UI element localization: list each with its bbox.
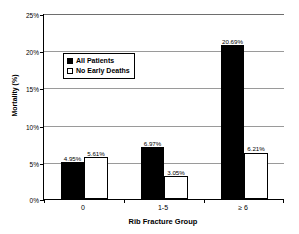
y-tick-label-5: 5% <box>15 160 39 167</box>
x-tick-1 <box>124 199 125 203</box>
bar-all-patients-ge6[interactable] <box>221 45 244 199</box>
chart-figure: Mortality (%) 25% 20% 15% 10% 5% 0% <box>0 0 299 234</box>
y-tick-25 <box>40 15 44 16</box>
value-label-no-early-deaths-1-5: 3.05% <box>167 169 185 176</box>
y-tick-label-20: 20% <box>15 49 39 56</box>
y-tick-label-15: 15% <box>15 86 39 93</box>
legend-item-no-early-deaths[interactable]: No Early Deaths <box>67 66 130 76</box>
value-label-all-patients-ge6: 20.69% <box>222 38 243 45</box>
y-tick-5 <box>40 164 44 165</box>
y-tick-label-0: 0% <box>15 197 39 204</box>
y-tick-label-25: 25% <box>15 12 39 19</box>
legend-swatch-filled-icon <box>67 58 73 64</box>
x-tick-2 <box>204 199 205 203</box>
legend-label-all-patients: All Patients <box>76 56 114 66</box>
x-tick-start <box>44 199 45 203</box>
bar-all-patients-1-5[interactable] <box>141 147 164 199</box>
chart-legend: All Patients No Early Deaths <box>63 53 135 79</box>
x-category-label-1-5: 1-5 <box>158 204 168 211</box>
gridline-10: 10% <box>44 126 284 127</box>
legend-label-no-early-deaths: No Early Deaths <box>76 66 130 76</box>
value-label-all-patients-1-5: 6.97% <box>144 140 162 147</box>
x-axis-title: Rib Fracture Group <box>43 217 283 226</box>
plot-area: 25% 20% 15% 10% 5% 0% <box>43 14 283 200</box>
y-tick-label-10: 10% <box>15 123 39 130</box>
x-category-label-ge6: ≥ 6 <box>238 204 248 211</box>
value-label-no-early-deaths-ge6: 6.21% <box>247 145 265 152</box>
bar-no-early-deaths-0[interactable] <box>84 157 108 199</box>
legend-swatch-open-icon <box>67 68 73 74</box>
y-tick-15 <box>40 89 44 90</box>
x-category-label-0: 0 <box>81 204 85 211</box>
bar-no-early-deaths-ge6[interactable] <box>244 153 268 199</box>
y-tick-10 <box>40 127 44 128</box>
legend-item-all-patients[interactable]: All Patients <box>67 56 130 66</box>
bar-all-patients-0[interactable] <box>61 162 84 199</box>
value-label-all-patients-0: 4.95% <box>64 155 82 162</box>
gridline-25: 25% <box>44 14 284 15</box>
value-label-no-early-deaths-0: 5.61% <box>87 150 105 157</box>
x-tick-end <box>283 199 284 203</box>
bar-no-early-deaths-1-5[interactable] <box>164 176 188 199</box>
gridline-15: 15% <box>44 88 284 89</box>
y-tick-20 <box>40 52 44 53</box>
